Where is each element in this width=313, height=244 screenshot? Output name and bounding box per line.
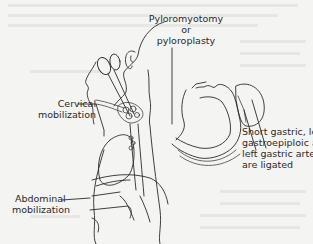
label-line: left gastric arteries: [242, 148, 313, 159]
scissors-icon: [95, 53, 134, 116]
label-line: or: [146, 24, 226, 35]
label-line: pyloroplasty: [146, 35, 226, 46]
esophagus-tube: [130, 124, 136, 190]
label-line: Cervical: [38, 98, 96, 109]
label-line: are ligated: [242, 159, 313, 170]
diaphragm: [92, 175, 168, 204]
label-line: Pyloromyotomy: [146, 13, 226, 24]
abdominal-mobilization-label: Abdominal mobilization: [12, 193, 70, 215]
cervical-tissue: [96, 100, 143, 123]
neck-outline: [148, 70, 161, 244]
pylorus: [176, 90, 186, 140]
label-line: mobilization: [38, 109, 96, 120]
arteries-ligated-label: Short gastric, left gastroepiploic and l…: [242, 126, 313, 170]
lung-outline: [98, 135, 134, 186]
pyloromyotomy-label: Pyloromyotomy or pyloroplasty: [146, 13, 226, 46]
cervical-mobilization-label: Cervical mobilization: [38, 98, 96, 120]
label-line: mobilization: [12, 204, 70, 215]
stomach-outline: [172, 84, 241, 158]
label-line: Abdominal: [12, 193, 70, 204]
label-line: Short gastric, left: [242, 126, 313, 137]
label-line: gastroepiploic and: [242, 137, 313, 148]
